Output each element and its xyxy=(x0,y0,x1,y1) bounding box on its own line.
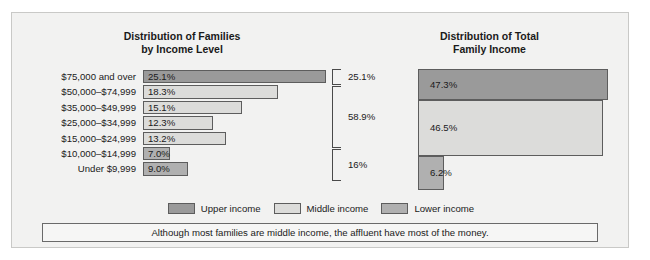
income-bracket-row: $50,000–$74,99918.3% xyxy=(26,84,326,99)
group-bracket-label: 16% xyxy=(348,159,367,170)
chart-legend: Upper incomeMiddle incomeLower income xyxy=(12,199,630,217)
income-bracket-label: $75,000 and over xyxy=(26,69,136,84)
group-bracket xyxy=(332,69,341,85)
income-bracket-row: $10,000–$14,9997.0% xyxy=(26,146,326,161)
caption-text: Although most families are middle income… xyxy=(151,227,488,238)
income-bracket-value: 25.1% xyxy=(148,69,175,84)
right-chart-title-line2: Family Income xyxy=(453,43,526,55)
income-bracket-value: 12.3% xyxy=(148,115,175,130)
income-group-brackets: 25.1%58.9%16% xyxy=(330,69,390,191)
income-share-value: 6.2% xyxy=(430,167,452,178)
left-chart-title-line1: Distribution of Families xyxy=(124,30,241,42)
income-bracket-row: $75,000 and over25.1% xyxy=(26,69,326,84)
legend-label: Middle income xyxy=(307,203,369,214)
income-bracket-label: $15,000–$24,999 xyxy=(26,131,136,146)
legend-item: Middle income xyxy=(274,203,369,214)
total-family-income-chart: 47.3%46.5%6.2% xyxy=(418,69,610,191)
income-bracket-value: 18.3% xyxy=(148,84,175,99)
income-bracket-row: $35,000–$49,99915.1% xyxy=(26,100,326,115)
caption-box: Although most families are middle income… xyxy=(42,223,598,242)
legend-swatch xyxy=(274,203,301,214)
income-bracket-row: $25,000–$34,99912.3% xyxy=(26,115,326,130)
group-bracket xyxy=(332,86,341,148)
legend-swatch xyxy=(381,203,408,214)
group-bracket-label: 58.9% xyxy=(348,111,375,122)
income-bracket-label: $35,000–$49,999 xyxy=(26,100,136,115)
left-chart-title-line2: by Income Level xyxy=(141,43,223,55)
income-bracket-label: $50,000–$74,999 xyxy=(26,84,136,99)
income-bracket-value: 7.0% xyxy=(148,146,170,161)
income-bracket-row: $15,000–$24,99913.2% xyxy=(26,131,326,146)
income-bracket-value: 15.1% xyxy=(148,100,175,115)
families-by-income-level-chart: $75,000 and over25.1%$50,000–$74,99918.3… xyxy=(26,69,326,191)
legend-label: Upper income xyxy=(201,203,261,214)
legend-label: Lower income xyxy=(414,203,474,214)
group-bracket xyxy=(332,149,341,181)
right-chart-title-line1: Distribution of Total xyxy=(440,30,539,42)
income-bracket-label: $10,000–$14,999 xyxy=(26,146,136,161)
left-chart-title: Distribution of Families by Income Level xyxy=(67,30,297,55)
income-bracket-row: Under $9,9999.0% xyxy=(26,161,326,176)
income-bracket-value: 9.0% xyxy=(148,161,170,176)
legend-item: Upper income xyxy=(168,203,261,214)
legend-item: Lower income xyxy=(381,203,474,214)
right-chart-title: Distribution of Total Family Income xyxy=(382,30,597,55)
group-bracket-label: 25.1% xyxy=(348,71,375,82)
income-bracket-value: 13.2% xyxy=(148,131,175,146)
income-share-value: 46.5% xyxy=(430,122,457,133)
legend-swatch xyxy=(168,203,195,214)
income-bracket-label: Under $9,999 xyxy=(26,161,136,176)
income-share-value: 47.3% xyxy=(430,79,457,90)
income-bracket-label: $25,000–$34,999 xyxy=(26,115,136,130)
figure-panel: Distribution of Families by Income Level… xyxy=(11,12,629,248)
